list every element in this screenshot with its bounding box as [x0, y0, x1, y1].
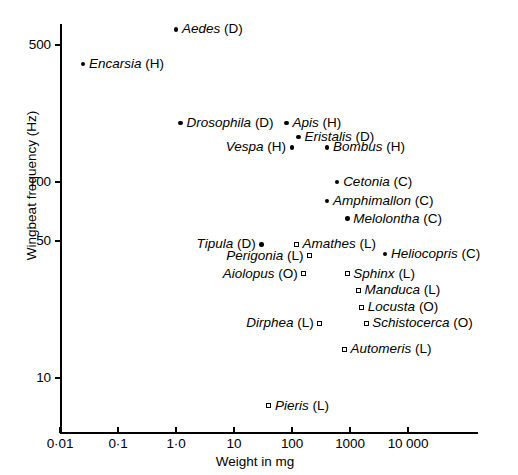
- data-point-label: Heliocopris (C): [391, 247, 480, 261]
- filled-circle-marker: [259, 242, 264, 247]
- data-point-label: Aiolopus (O): [223, 267, 298, 281]
- open-square-marker: [364, 321, 369, 326]
- data-point-label: Amathes (L): [303, 237, 377, 251]
- open-square-marker: [294, 242, 299, 247]
- data-point-label: Schistocerca (O): [372, 316, 473, 330]
- open-square-marker: [266, 403, 271, 408]
- y-tick-mark: [55, 240, 61, 242]
- x-axis-title: Weight in mg: [165, 454, 345, 469]
- data-point-label: Pieris (L): [275, 399, 329, 413]
- data-point-label: Manduca (L): [364, 283, 440, 297]
- open-square-marker: [317, 321, 322, 326]
- open-square-marker: [301, 271, 306, 276]
- y-tick-label: 500: [5, 38, 51, 52]
- filled-circle-marker: [325, 199, 330, 204]
- data-point-label: Amphimallon (C): [333, 194, 434, 208]
- x-tick-label: 10 000: [373, 437, 443, 451]
- y-axis-line: [60, 24, 62, 433]
- filled-circle-marker: [290, 145, 295, 150]
- filled-circle-marker: [178, 121, 183, 126]
- x-axis-line: [60, 432, 478, 434]
- data-point-label: Bombus (H): [333, 140, 405, 154]
- y-tick-mark: [55, 44, 61, 46]
- wingbeat-frequency-scatter-chart: 5001005010 0·010·11·010100100010 000 Win…: [0, 0, 518, 475]
- data-point-label: Sphinx (L): [353, 267, 415, 281]
- y-tick-mark: [55, 181, 61, 183]
- x-tick-mark: [59, 427, 61, 433]
- filled-circle-marker: [81, 62, 86, 67]
- data-point-label: Locusta (O): [368, 300, 439, 314]
- data-point-label: Perigonia (L): [226, 249, 303, 263]
- filled-circle-marker: [335, 180, 340, 185]
- open-square-marker: [307, 253, 312, 258]
- filled-circle-marker: [284, 121, 289, 126]
- open-square-marker: [359, 305, 364, 310]
- data-point-label: Automeris (L): [350, 342, 431, 356]
- data-point-label: Melolontha (C): [353, 212, 442, 226]
- filled-circle-marker: [296, 135, 301, 140]
- filled-circle-marker: [325, 145, 330, 150]
- open-square-marker: [345, 271, 350, 276]
- x-tick-mark: [233, 427, 235, 433]
- filled-circle-marker: [345, 216, 350, 221]
- filled-circle-marker: [383, 252, 388, 257]
- y-tick-mark: [55, 377, 61, 379]
- data-point-label: Encarsia (H): [89, 57, 164, 71]
- x-tick-mark: [175, 427, 177, 433]
- x-tick-mark: [117, 427, 119, 433]
- data-point-label: Cetonia (C): [343, 175, 412, 189]
- y-axis-title: Wingbeat frequency (Hz): [24, 86, 39, 286]
- data-point-label: Vespa (H): [226, 140, 286, 154]
- data-point-label: Dirphea (L): [246, 316, 314, 330]
- x-tick-mark: [349, 427, 351, 433]
- data-point-label: Drosophila (D): [187, 116, 274, 130]
- x-tick-mark: [407, 427, 409, 433]
- x-tick-mark: [291, 427, 293, 433]
- open-square-marker: [342, 347, 347, 352]
- data-point-label: Apis (H): [292, 116, 341, 130]
- open-square-marker: [356, 288, 361, 293]
- data-point-label: Aedes (D): [182, 22, 243, 36]
- filled-circle-marker: [174, 27, 179, 32]
- y-tick-label: 10: [5, 371, 51, 385]
